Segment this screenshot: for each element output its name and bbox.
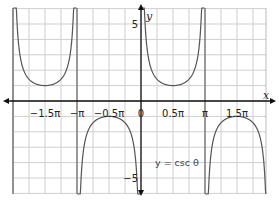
x-tick-label: −1.5π — [30, 108, 60, 119]
csc-graph: −1.5π−π−0.5π00.5ππ1.5π5−5 y x y = csc θ — [0, 0, 279, 207]
x-axis-arrow-left-icon — [3, 98, 9, 104]
x-tick-label: 1.5π — [226, 108, 248, 119]
x-tick-label: −π — [70, 108, 84, 119]
x-tick-label: 0 — [138, 108, 144, 119]
x-tick-label: 0.5π — [162, 108, 184, 119]
x-tick-label: −0.5π — [94, 108, 124, 119]
y-tick-label: 5 — [132, 19, 138, 30]
x-axis-label: x — [263, 89, 270, 102]
function-annotation: y = csc θ — [155, 157, 199, 168]
csc-branch-curve — [205, 116, 265, 194]
axes — [3, 4, 276, 196]
y-axis-label: y — [145, 10, 153, 23]
x-tick-label: π — [202, 108, 208, 119]
y-axis-arrow-up-icon — [138, 4, 144, 10]
y-tick-label: −5 — [123, 173, 138, 184]
x-axis-arrow-right-icon — [270, 98, 276, 104]
